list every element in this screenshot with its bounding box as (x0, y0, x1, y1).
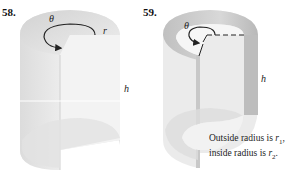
figure-58-number: 58. (2, 6, 16, 18)
note-line-inside: inside radius is r2. (209, 148, 285, 163)
figure-59-number: 59. (143, 6, 157, 18)
figure-59-radius-note: Outside radius is r1, inside radius is r… (209, 133, 285, 163)
figure-59-height-label: h (261, 73, 266, 84)
figure-58-height-label: h (124, 83, 129, 94)
figure-58-radius-label: r (103, 25, 107, 36)
figure-58-theta-label: θ (49, 13, 54, 24)
note-line-outside: Outside radius is r1, (209, 133, 285, 148)
shell-cut-wall-right (244, 35, 258, 115)
figure-59-theta-label: θ (184, 20, 189, 31)
